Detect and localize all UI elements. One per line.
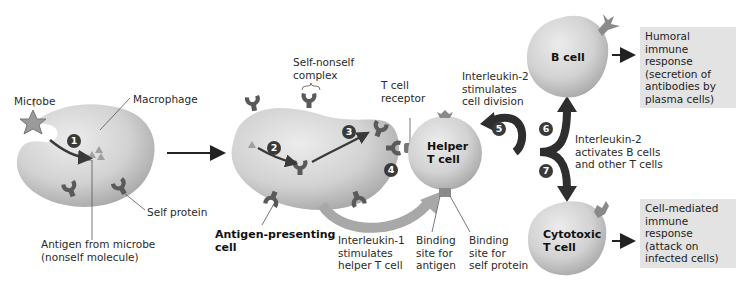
interleukin-2-division-label: Interleukin-2 stimulates cell division (462, 70, 529, 108)
self-protein-label: Self protein (147, 206, 207, 219)
step-3-badge: 3 (342, 125, 356, 139)
cytotoxic-t-cell-label: Cytotoxic T cell (543, 228, 601, 254)
antigen-presenting-cell-label: Antigen-presenting cell (215, 228, 335, 254)
self-nonself-complex-label: Self-nonself complex (293, 56, 354, 81)
microbe-icon (20, 110, 46, 134)
binding-site-antigen-label: Binding site for antigen (416, 234, 456, 272)
humoral-response-box: Humoral immune response (secretion of an… (640, 27, 736, 108)
interleukin-2-activates-label: Interleukin-2 activates B cells and othe… (575, 133, 663, 171)
step-6-badge: 6 (539, 122, 553, 136)
antigen-from-microbe-label: Antigen from microbe (nonself molecule) (41, 238, 155, 263)
cell-mediated-response-box: Cell-mediated immune response (attack on… (640, 199, 736, 268)
step-4-badge: 4 (384, 163, 398, 177)
step-2-badge: 2 (267, 141, 281, 155)
antigen-presenting-cell-shape (232, 93, 399, 210)
step-5-badge: 5 (492, 122, 506, 136)
b-cell-label: B cell (551, 51, 585, 64)
binding-site-self-protein-label: Binding site for self protein (469, 234, 528, 272)
microbe-label: Microbe (14, 95, 55, 108)
t-cell-receptor-label: T cell receptor (381, 79, 425, 104)
interleukin-1-label: Interleukin-1 stimulates helper T cell (338, 234, 405, 272)
step-1-badge: 1 (67, 134, 81, 148)
helper-t-cell-label: Helper T cell (427, 140, 468, 166)
immune-response-diagram: 1 2 3 4 5 6 7 Microbe Macrophage Self pr… (0, 0, 738, 290)
step-7-badge: 7 (539, 164, 553, 178)
macrophage-label: Macrophage (133, 93, 198, 106)
